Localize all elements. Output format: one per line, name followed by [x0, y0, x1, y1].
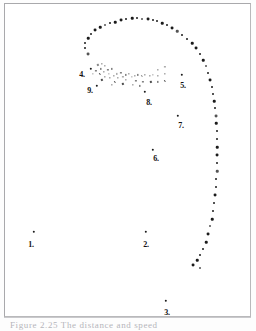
data-point-marker — [109, 22, 111, 24]
cluster-marker — [141, 75, 143, 78]
data-point-marker — [191, 42, 194, 45]
data-point-marker — [131, 17, 134, 20]
data-point-marker — [209, 225, 211, 227]
cluster-marker — [114, 81, 116, 84]
figure-page: 1.2.3.4.5.6.7.8.9. Figure 2.25 The dista… — [0, 0, 256, 331]
data-point-marker — [120, 19, 123, 22]
annotation-marker — [90, 68, 92, 70]
cluster-marker — [125, 79, 126, 80]
data-point-marker — [212, 210, 214, 212]
data-point-marker — [171, 27, 174, 30]
annotation-marker — [177, 115, 179, 117]
cluster-marker — [139, 85, 140, 87]
cluster-marker — [120, 72, 122, 73]
annotation-label-6: 6. — [153, 155, 159, 163]
data-point-marker — [186, 38, 188, 40]
cluster-marker — [111, 84, 112, 85]
cluster-marker — [142, 81, 144, 82]
cluster-marker — [135, 80, 137, 81]
data-point-marker — [209, 79, 212, 82]
annotation-label-5: 5. — [180, 82, 186, 90]
cluster-marker — [125, 74, 126, 76]
data-point-marker — [99, 26, 102, 29]
cluster-marker — [107, 69, 109, 70]
data-point-marker — [199, 267, 201, 269]
cluster-marker — [103, 71, 104, 72]
data-point-marker — [136, 17, 138, 19]
data-point-marker — [211, 218, 214, 221]
data-point-marker — [114, 21, 117, 24]
cluster-marker — [157, 75, 158, 76]
data-point-marker — [205, 241, 208, 244]
data-point-marker — [213, 100, 216, 103]
data-point-marker — [213, 202, 215, 204]
data-point-marker — [181, 34, 183, 36]
figure-caption-text: Figure 2.25 The distance and speed — [10, 320, 158, 330]
annotation-label-2: 2. — [143, 241, 149, 249]
data-point-marker — [125, 18, 127, 20]
annotation-label-8: 8. — [146, 99, 152, 107]
cluster-marker — [95, 70, 97, 71]
data-point-marker — [216, 154, 219, 157]
data-point-marker — [192, 264, 195, 267]
data-point-marker — [216, 130, 218, 132]
annotation-label-1: 1. — [28, 241, 34, 249]
data-point-marker — [216, 162, 218, 164]
cluster-marker — [164, 66, 166, 67]
data-point-marker — [216, 138, 218, 140]
annotation-marker — [33, 231, 35, 233]
data-point-marker — [141, 18, 143, 20]
cluster-marker — [157, 69, 158, 70]
data-point-marker — [214, 194, 217, 197]
data-point-marker — [152, 19, 154, 21]
cluster-marker — [157, 81, 158, 83]
data-point-marker — [176, 30, 179, 33]
annotation-label-3: 3. — [164, 309, 170, 316]
annotation-marker — [144, 91, 146, 93]
cluster-marker — [104, 65, 105, 66]
figure-caption: Figure 2.25 The distance and speed — [10, 320, 250, 330]
cluster-marker — [116, 73, 117, 75]
data-point-marker — [199, 53, 201, 55]
data-point-marker — [207, 233, 210, 236]
scatter-plot-area: 1.2.3.4.5.6.7.8.9. — [5, 4, 250, 316]
annotation-marker — [152, 149, 154, 151]
cluster-marker — [128, 73, 129, 74]
cluster-marker — [131, 76, 132, 77]
data-point-marker — [90, 33, 92, 35]
cluster-marker — [117, 77, 118, 78]
cluster-marker — [92, 73, 93, 74]
data-point-marker — [211, 86, 213, 88]
annotation-label-7: 7. — [178, 122, 184, 130]
data-point-marker — [195, 47, 198, 50]
cluster-marker — [108, 73, 109, 74]
data-point-marker — [87, 37, 90, 40]
cluster-marker — [149, 75, 150, 76]
cluster-marker — [122, 76, 124, 77]
cluster-marker — [109, 77, 110, 78]
cluster-marker — [144, 74, 145, 75]
annotation-marker — [145, 231, 147, 233]
data-point-marker — [205, 65, 207, 67]
cluster-marker — [113, 75, 114, 76]
data-point-marker — [147, 18, 150, 21]
data-point-marker — [199, 254, 201, 256]
data-point-marker — [87, 53, 90, 56]
data-point-marker — [104, 24, 106, 26]
annotation-label-9: 9. — [87, 87, 93, 95]
cluster-marker — [164, 73, 165, 74]
annotation-marker — [96, 85, 98, 87]
data-point-marker — [215, 115, 218, 118]
data-point-marker — [215, 186, 217, 188]
data-point-marker — [196, 259, 199, 262]
data-point-marker — [166, 24, 168, 26]
cluster-marker — [111, 68, 112, 70]
data-point-marker — [156, 20, 158, 22]
data-point-marker — [215, 122, 218, 125]
data-point-marker — [202, 248, 204, 250]
cluster-marker — [121, 82, 124, 85]
annotation-marker — [181, 74, 183, 76]
data-point-marker — [84, 42, 86, 44]
data-point-marker — [212, 93, 214, 95]
data-point-marker — [207, 72, 209, 74]
